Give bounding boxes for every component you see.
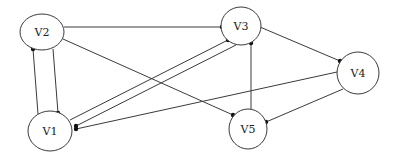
edge-v3-to-v4 [260, 27, 342, 63]
edge-line [266, 89, 343, 122]
edge-v5-to-v3 [249, 41, 253, 110]
node-v5: V5 [229, 109, 267, 149]
edge-v2-to-v3 [64, 25, 224, 29]
node-v1: V1 [28, 111, 72, 151]
edge-line [260, 27, 340, 61]
node-label: V1 [42, 125, 58, 138]
edges [31, 25, 343, 131]
node-label: V4 [350, 67, 366, 80]
edge-line [70, 40, 228, 120]
edge-v4-to-v1 [74, 72, 337, 131]
node-v3: V3 [221, 7, 261, 45]
arrowhead-dot-icon [74, 127, 78, 131]
edge-line [76, 72, 337, 129]
node-label: V3 [233, 20, 249, 33]
edge-v3-to-v1 [74, 45, 236, 128]
edge-v1-to-v2 [31, 47, 38, 114]
directed-graph: V1V2V3V4V5 [0, 0, 400, 160]
edge-line [76, 45, 236, 126]
edge-v1-to-v3 [70, 38, 230, 120]
edge-line [33, 49, 38, 114]
edge-line [53, 49, 58, 113]
node-v2: V2 [20, 14, 64, 50]
edge-v2-to-v5 [63, 39, 235, 117]
edge-v4-to-v5 [264, 89, 343, 124]
node-label: V2 [34, 26, 50, 39]
edge-v2-to-v1 [53, 49, 60, 115]
node-label: V5 [240, 123, 256, 136]
node-v4: V4 [337, 52, 379, 94]
